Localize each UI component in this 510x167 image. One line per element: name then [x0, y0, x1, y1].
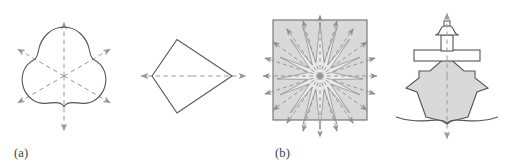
panel-c: (c) [256, 0, 384, 167]
panel-c-drawing [256, 0, 384, 167]
panel-a: (a) [0, 0, 128, 167]
panel-a-drawing [0, 0, 128, 167]
axis-diag2-upright [64, 49, 111, 76]
axis-diag1-upleft [18, 49, 65, 76]
symmetry-figure: (a) (b) [0, 0, 510, 167]
caption-a: (a) [14, 146, 28, 161]
panel-b: (b) [128, 0, 256, 167]
panel-b-drawing [128, 0, 256, 167]
symmetry-axes-a [18, 22, 111, 131]
panel-d: (d) [384, 0, 510, 167]
panel-d-drawing [384, 0, 510, 167]
